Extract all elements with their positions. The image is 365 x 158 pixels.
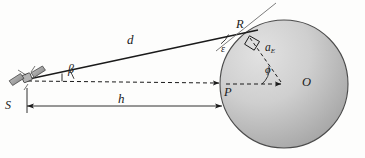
label-point-p: P (224, 86, 232, 99)
satellite-icon (9, 66, 47, 90)
label-angle-phi: ϕ (265, 64, 271, 75)
label-radius-aE-subscript: E (271, 47, 275, 55)
label-height-h: h (118, 92, 125, 105)
geometry-figure: d β h S R P O ε ϕ aE (0, 0, 365, 158)
label-point-o: O (302, 76, 311, 89)
label-radius-aE: aE (265, 42, 275, 55)
label-angle-epsilon: ε (221, 44, 225, 54)
earth-disc (220, 20, 348, 148)
label-angle-beta: β (68, 63, 74, 75)
axis-line-left (28, 81, 214, 83)
label-offset-s: S (5, 99, 11, 111)
label-distance-d: d (127, 33, 134, 46)
label-point-r: R (236, 18, 244, 31)
